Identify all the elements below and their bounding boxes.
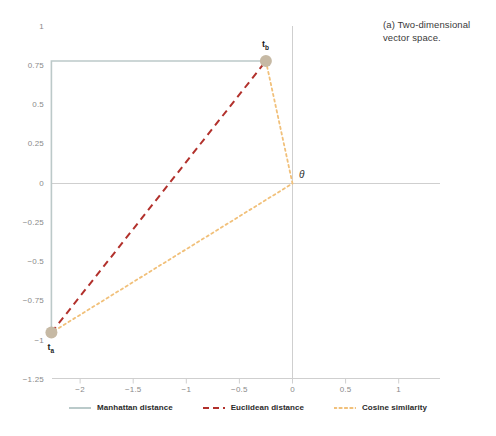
x-axis-tick-label: −2 xyxy=(60,385,100,394)
legend-swatch-icon xyxy=(334,404,356,412)
y-axis-tick-text: −1.25 xyxy=(6,375,44,384)
y-axis-tick-text: 0.5 xyxy=(6,100,44,109)
y-axis-tick-text: 0.75 xyxy=(6,61,44,70)
y-axis-tick-label: −1.25 xyxy=(6,375,44,385)
chart-legend: Manhattan distanceEuclidean distanceCosi… xyxy=(0,403,496,412)
x-axis-tick-label: 0.5 xyxy=(326,385,366,394)
y-axis-tick-text: 0.25 xyxy=(6,139,44,148)
point-label-t_a: ta xyxy=(47,342,54,354)
y-axis-tick-label: 0.75 xyxy=(6,61,44,71)
x-axis-tick-label: −0.5 xyxy=(219,385,259,394)
x-axis-tick-label: −1 xyxy=(166,385,206,394)
y-axis-tick-label: −0.25 xyxy=(6,218,44,228)
legend-label-text: Euclidean distance xyxy=(231,403,304,412)
point-label-subscript: a xyxy=(50,346,54,353)
data-point-marker-t_b xyxy=(260,55,272,67)
angle-theta-label: θ xyxy=(299,169,304,180)
x-axis-tick-label: 1 xyxy=(379,385,419,394)
y-axis-tick-text: 1 xyxy=(6,22,44,31)
y-axis-tick-label: 0.5 xyxy=(6,100,44,110)
figure-container: (a) Two-dimensional vector space. 10.750… xyxy=(0,0,496,436)
y-axis-tick-text: −1 xyxy=(6,336,44,345)
y-axis-tick-text: 0 xyxy=(6,179,44,188)
legend-swatch-icon xyxy=(69,404,91,412)
legend-label-text: Cosine similarity xyxy=(362,403,427,412)
x-axis-tick-label: −1.5 xyxy=(113,385,153,394)
x-axis-tick-marks xyxy=(80,379,399,384)
y-axis-tick-label: −0.5 xyxy=(6,257,44,267)
legend-swatch-icon xyxy=(203,404,225,412)
series-line-cosine-similarity xyxy=(51,61,292,333)
legend-item-euclidean-distance[interactable]: Euclidean distance xyxy=(203,403,304,412)
plot-canvas xyxy=(0,0,496,436)
y-axis-tick-label: −1 xyxy=(6,336,44,346)
y-axis-tick-text: −0.75 xyxy=(6,296,44,305)
data-point-marker-t_a xyxy=(45,327,57,339)
series-layer xyxy=(51,61,292,333)
y-axis-tick-label: −0.75 xyxy=(6,296,44,306)
legend-item-cosine-similarity[interactable]: Cosine similarity xyxy=(334,403,427,412)
y-axis-tick-label: 1 xyxy=(6,22,44,32)
point-label-subscript: b xyxy=(265,44,269,51)
series-line-euclidean-distance xyxy=(51,61,266,333)
x-axis-tick-label: 0 xyxy=(273,385,313,394)
point-label-t_b: tb xyxy=(262,39,269,51)
legend-item-manhattan-distance[interactable]: Manhattan distance xyxy=(69,403,173,412)
y-axis-tick-text: −0.5 xyxy=(6,257,44,266)
y-axis-tick-label: 0 xyxy=(6,179,44,189)
legend-label-text: Manhattan distance xyxy=(97,403,173,412)
y-axis-tick-text: −0.25 xyxy=(6,218,44,227)
y-axis-tick-label: 0.25 xyxy=(6,139,44,149)
